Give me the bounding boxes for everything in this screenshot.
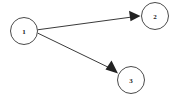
edge-line-1-3 — [38, 33, 116, 71]
arrowhead-icon-1-3 — [106, 61, 119, 74]
node-label-1: 1 — [22, 28, 26, 36]
node-label-2: 2 — [153, 13, 157, 21]
graph-node-2[interactable]: 2 — [142, 3, 169, 30]
edge-1-to-2[interactable] — [38, 11, 141, 30]
arrowhead-icon-1-2 — [129, 11, 141, 21]
edge-1-to-3[interactable] — [38, 33, 119, 74]
graph-node-1[interactable]: 1 — [11, 18, 38, 45]
graph-svg: 1 2 3 — [0, 0, 176, 97]
edge-line-1-2 — [38, 16, 139, 30]
graph-node-3[interactable]: 3 — [118, 67, 145, 94]
graph-canvas: 1 2 3 — [0, 0, 176, 97]
node-label-3: 3 — [129, 77, 133, 85]
